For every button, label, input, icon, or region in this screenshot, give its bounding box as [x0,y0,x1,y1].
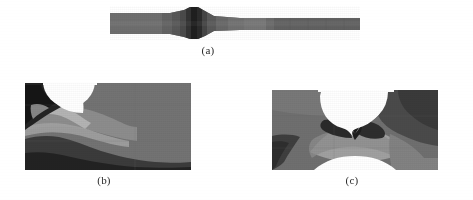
panel-a-specimen [110,6,360,40]
panel-b-contour-plot [25,83,191,170]
panel-c-symmetric-notch-contour [272,90,438,170]
caption-a: (a) [178,44,238,56]
figure-root: (a) [0,0,473,200]
panel-b-notch-contour [25,83,191,170]
caption-c: (c) [322,174,382,186]
panel-a-contour-plot [110,6,360,40]
panel-c-contour-plot [272,90,438,170]
caption-b: (b) [74,174,134,186]
